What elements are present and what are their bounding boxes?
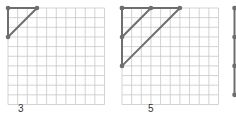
figure-2-label: 5 [148, 104, 154, 114]
figure-1-label: 3 [18, 104, 24, 114]
triangle [122, 8, 151, 37]
vertex-dot [6, 35, 11, 40]
vertex-dot [120, 64, 125, 69]
vertex-dot [120, 35, 125, 40]
vertex-dot [178, 6, 183, 11]
vertex-dot [149, 6, 154, 11]
vertex-dot [120, 6, 125, 11]
grid-figure-2 [120, 6, 219, 105]
triangle [8, 8, 37, 37]
vertex-dot [232, 6, 236, 11]
vertex-dot [35, 6, 40, 11]
vertex-dot [6, 6, 11, 11]
vertex-dot [232, 64, 236, 69]
vertex-dot [232, 93, 236, 98]
partial-figure-3 [232, 6, 236, 97]
vertex-dot [232, 35, 236, 40]
grid-figure-1 [6, 6, 105, 105]
diagram-canvas [0, 0, 236, 116]
